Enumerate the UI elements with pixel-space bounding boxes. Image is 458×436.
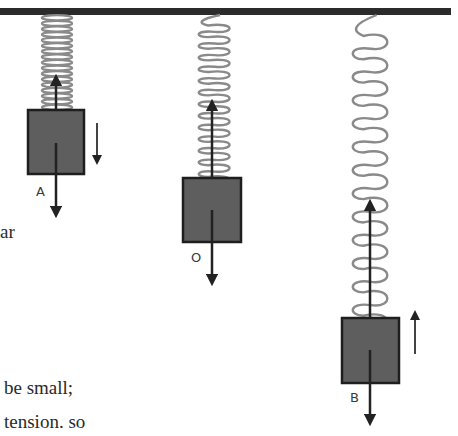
mass-o: O [183,15,241,280]
frag-ar: ar [0,222,15,241]
frag-be-small: be small; [4,378,73,397]
spring-o [199,15,230,183]
mass-a: A [28,15,97,212]
frag-tension-so: tension. so [4,412,85,431]
position-label-a: A [36,184,45,199]
position-label-b: B [350,390,359,405]
spring-mass-diagram: AOB [0,0,458,436]
position-label-o: O [191,250,201,265]
mass-b: B [342,15,415,420]
ceiling-bar [0,8,451,15]
